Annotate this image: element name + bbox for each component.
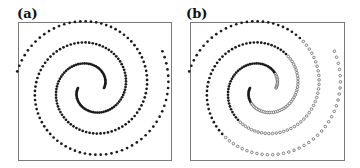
filled-point	[114, 28, 117, 31]
panel-a	[16, 20, 172, 161]
hollow-point	[315, 96, 318, 99]
filled-point	[74, 149, 77, 152]
filled-point	[18, 64, 21, 67]
filled-point	[39, 69, 42, 72]
filled-point	[34, 90, 37, 93]
filled-point	[282, 26, 285, 29]
filled-point	[95, 21, 98, 24]
filled-point	[166, 68, 169, 71]
filled-point	[124, 86, 127, 89]
hollow-point	[333, 110, 336, 113]
filled-point	[123, 91, 126, 94]
hollow-point	[253, 130, 256, 133]
filled-point	[249, 42, 252, 45]
filled-point	[69, 147, 72, 150]
filled-point	[142, 100, 145, 103]
hollow-point	[338, 68, 341, 71]
filled-point	[145, 88, 148, 91]
filled-point	[140, 104, 143, 107]
hollow-point	[335, 104, 338, 107]
hollow-point	[241, 147, 244, 150]
filled-point	[60, 142, 63, 145]
hollow-point	[313, 56, 316, 59]
hollow-point	[300, 121, 303, 124]
hollow-point	[297, 80, 300, 83]
filled-point	[237, 119, 240, 122]
filled-point	[272, 22, 275, 25]
filled-point	[65, 119, 68, 122]
hollow-point	[320, 130, 323, 133]
hollow-point	[318, 79, 321, 82]
filled-point	[120, 63, 123, 66]
filled-point	[145, 69, 148, 72]
filled-point	[55, 50, 58, 53]
filled-point	[210, 36, 213, 39]
hollow-point	[303, 144, 306, 147]
filled-point	[140, 138, 143, 141]
filled-point	[79, 151, 82, 154]
filled-point	[95, 132, 98, 135]
hollow-point	[317, 92, 320, 95]
filled-point	[105, 47, 108, 50]
hollow-point	[282, 152, 285, 155]
filled-point	[135, 141, 138, 144]
hollow-point	[266, 153, 269, 156]
hollow-point	[271, 132, 274, 135]
hollow-point	[251, 151, 254, 154]
hollow-point	[308, 48, 311, 51]
filled-point	[230, 25, 233, 28]
filled-point	[228, 85, 231, 88]
filled-point	[85, 131, 88, 134]
hollow-point	[232, 142, 235, 145]
filled-point	[75, 127, 78, 130]
filled-point	[125, 80, 128, 83]
filled-point	[56, 102, 59, 105]
hollow-point	[250, 128, 253, 131]
hollow-point	[292, 63, 295, 66]
filled-point	[231, 48, 234, 51]
hollow-point	[314, 100, 317, 103]
hollow-point	[256, 152, 259, 155]
filled-point	[124, 123, 127, 126]
filled-point	[273, 45, 276, 48]
filled-point	[110, 50, 113, 53]
filled-point	[138, 108, 141, 111]
filled-point	[142, 60, 145, 63]
filled-point	[246, 21, 249, 24]
filled-point	[67, 121, 70, 124]
filled-point	[227, 91, 230, 94]
filled-point	[235, 23, 238, 26]
filled-point	[267, 43, 270, 46]
filled-point	[230, 108, 233, 111]
filled-point	[270, 44, 273, 47]
filled-point	[55, 93, 58, 96]
filled-point	[240, 22, 243, 25]
hollow-point	[338, 93, 341, 96]
filled-point	[227, 96, 230, 99]
panel-b	[188, 20, 345, 161]
filled-point	[38, 73, 41, 76]
filled-point	[202, 44, 205, 47]
hollow-point	[303, 118, 306, 121]
filled-point	[233, 113, 236, 116]
plot-frame	[19, 23, 172, 161]
filled-point	[282, 50, 285, 53]
filled-point	[59, 48, 62, 51]
filled-point	[295, 33, 298, 36]
filled-point	[88, 41, 91, 44]
hollow-point	[330, 115, 333, 118]
filled-point	[55, 91, 58, 94]
filled-point	[192, 59, 195, 62]
hollow-point	[296, 71, 299, 74]
filled-point	[49, 55, 52, 58]
filled-point	[52, 136, 55, 139]
filled-point	[128, 120, 131, 123]
filled-point	[253, 41, 256, 44]
filled-point	[221, 133, 224, 136]
filled-point	[133, 115, 136, 118]
hollow-point	[296, 123, 299, 126]
hollow-point	[317, 70, 320, 73]
filled-point	[38, 117, 41, 120]
filled-point	[166, 93, 169, 96]
filled-point	[136, 48, 139, 51]
